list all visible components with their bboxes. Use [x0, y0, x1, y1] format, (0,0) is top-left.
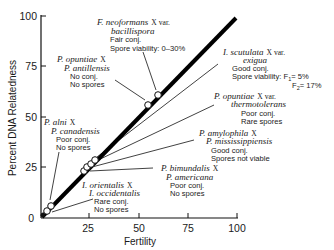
leader-alni: [50, 152, 59, 200]
cross-symbol: X var.: [267, 48, 286, 57]
annotation-orientalis: I. orientalisX I. occidentalis Rare conj…: [81, 180, 140, 214]
cross-symbol: X: [213, 164, 219, 173]
data-point: [155, 92, 162, 99]
leader-neoformans: [143, 52, 156, 90]
y-tick-label-50: 50: [25, 111, 37, 123]
note-3: F2= 17%: [292, 81, 322, 91]
y-tick-label-25: 25: [25, 161, 37, 173]
x-tick-label-75: 75: [182, 222, 194, 234]
annotation-neoformans: F. neoformansX var. bacillispora Fair co…: [96, 17, 185, 53]
x-tick-label-100: 100: [228, 222, 246, 234]
annotation-bimundalis: P. bimundalisX P. americana Poor conj. N…: [160, 163, 219, 198]
y-axis-title: Percent DNA Relatedness: [7, 60, 18, 176]
dna-fertility-chart: 100 75 50 25 0 25 50 75 100 Fertility Pe…: [0, 0, 334, 250]
note-2: No spores: [170, 189, 205, 198]
annotation-amylophila: P. amylophilaX P. mississippiensis Good …: [198, 128, 273, 163]
note-2: No spores: [94, 205, 129, 214]
note-2: Rare spores: [241, 117, 283, 126]
annotation-alni: P. alniX P. canadensis Poor conj. No spo…: [43, 117, 100, 152]
y-tick-label-100: 100: [19, 10, 37, 22]
note-2: Spore viability: 0–30%: [110, 44, 185, 53]
note-2: No spores: [56, 143, 91, 152]
y-tick-label-0: 0: [28, 212, 34, 224]
annotation-opuntiae-antillensis: P. opuntiaeX P. antillensis No conj. No …: [56, 54, 110, 89]
annotation-thermotolerans: P. opuntiaeX var. thermotolerans Poor co…: [213, 91, 286, 126]
data-point: [48, 203, 55, 210]
note-2: Spores not viable: [211, 154, 270, 163]
note-2: Spore viability: F1= 5%: [232, 72, 309, 82]
note-2: No spores: [70, 80, 105, 89]
y-tick-label-75: 75: [25, 60, 37, 72]
leader-bimundalis: [90, 168, 153, 171]
x-axis-title: Fertility: [124, 236, 156, 247]
x-tick-label-50: 50: [133, 222, 145, 234]
note-1: Fair conj.: [110, 35, 141, 44]
species-2: thermotolerans: [231, 99, 286, 109]
data-point: [92, 157, 99, 164]
species-2: P. mississippiensis: [205, 136, 273, 146]
leader-opuntiae-antillensis: [115, 80, 145, 100]
x-tick-label-25: 25: [82, 222, 94, 234]
data-point: [145, 102, 152, 109]
annotation-scutulata: I. scutulataX var. exigua Good conj. Spo…: [222, 47, 322, 91]
